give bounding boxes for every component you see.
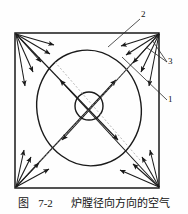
inner-tangential-circle	[75, 92, 103, 120]
callout-label-3: 3	[168, 57, 173, 66]
caption-text: 炉膛径向方向的空气	[71, 197, 170, 209]
figure-caption: 图7-2炉膛径向方向的空气	[0, 194, 188, 210]
burner-jets-bottom-right	[120, 150, 159, 187]
caption-prefix: 图	[18, 197, 29, 209]
caption-number: 7-2	[38, 197, 53, 209]
burner-jets-top-left	[16, 34, 54, 86]
figure-container: 2 3 1 图7-2炉膛径向方向的空气	[0, 0, 188, 214]
callout-label-2: 2	[141, 10, 146, 19]
burner-jets-bottom-left	[16, 150, 49, 187]
callout-label-1: 1	[168, 95, 173, 104]
furnace-radial-air-flow-diagram	[0, 0, 188, 214]
